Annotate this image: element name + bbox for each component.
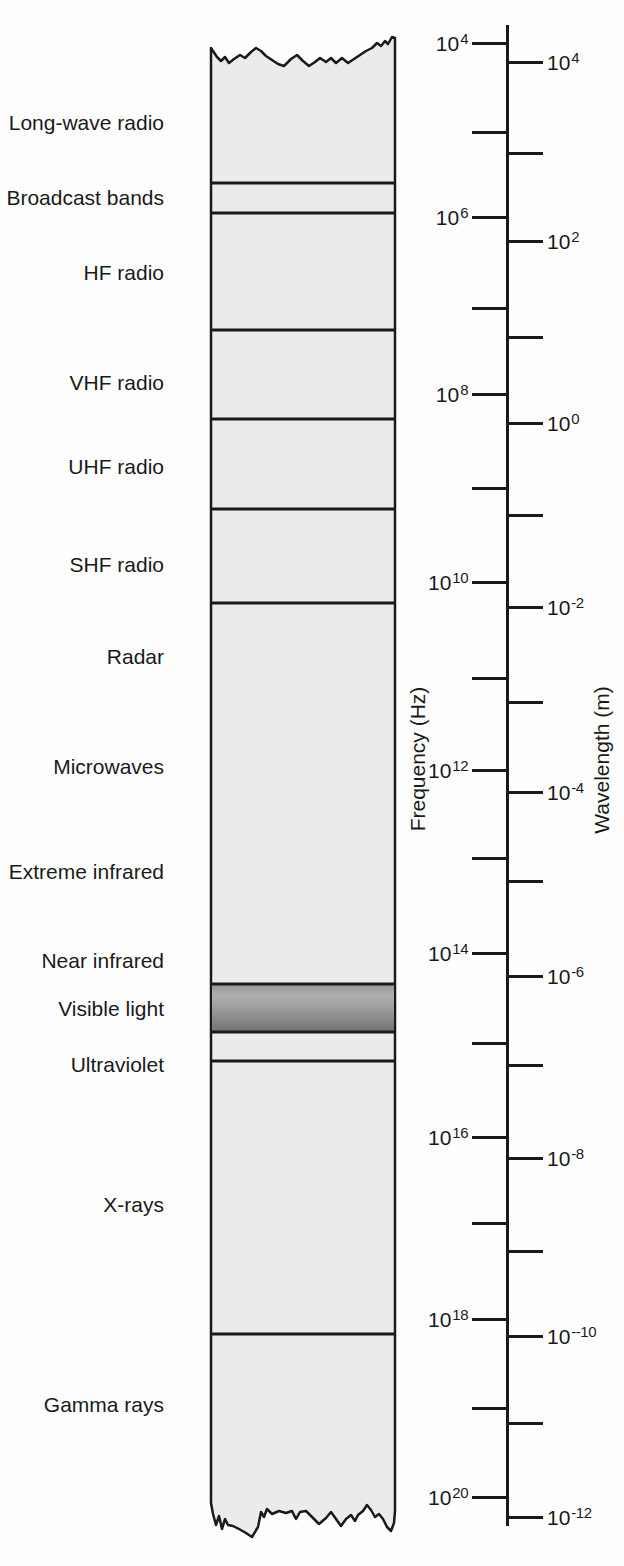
frequency-tick bbox=[472, 1136, 507, 1139]
frequency-tick bbox=[472, 487, 507, 490]
region-label-microwaves: Microwaves bbox=[53, 756, 164, 777]
frequency-tick bbox=[472, 1407, 507, 1410]
frequency-tick bbox=[472, 677, 507, 680]
frequency-tick bbox=[472, 42, 507, 45]
frequency-tick bbox=[472, 393, 507, 396]
wavelength-tick bbox=[507, 606, 543, 609]
axis-line bbox=[506, 25, 509, 1526]
frequency-tick-label: 1012 bbox=[428, 760, 468, 781]
wavelength-tick bbox=[507, 1064, 543, 1067]
wavelength-tick-label: 10-4 bbox=[547, 782, 584, 803]
region-label-ultraviolet: Ultraviolet bbox=[71, 1054, 164, 1075]
spectrum-band bbox=[209, 30, 398, 1550]
frequency-tick bbox=[472, 952, 507, 955]
frequency-tick-label: 108 bbox=[436, 384, 468, 405]
region-label-broadcast-bands: Broadcast bands bbox=[6, 187, 164, 208]
frequency-tick bbox=[472, 216, 507, 219]
wavelength-tick bbox=[507, 336, 543, 339]
frequency-tick-label: 1014 bbox=[428, 943, 468, 964]
wavelength-tick bbox=[507, 1335, 543, 1338]
region-label-gamma-rays: Gamma rays bbox=[44, 1394, 164, 1415]
wavelength-axis-title: Wavelength (m) bbox=[591, 686, 612, 833]
wavelength-tick bbox=[507, 61, 543, 64]
frequency-tick bbox=[472, 1496, 507, 1499]
wavelength-tick bbox=[507, 791, 543, 794]
region-label-radar: Radar bbox=[107, 646, 164, 667]
wavelength-tick bbox=[507, 240, 543, 243]
frequency-tick bbox=[472, 1042, 507, 1045]
wavelength-tick bbox=[507, 1250, 543, 1253]
frequency-tick-label: 1018 bbox=[428, 1309, 468, 1330]
wavelength-tick bbox=[507, 1516, 543, 1519]
frequency-tick bbox=[472, 857, 507, 860]
region-label-hf-radio: HF radio bbox=[83, 262, 164, 283]
wavelength-tick bbox=[507, 514, 543, 517]
wavelength-tick-label: 102 bbox=[547, 231, 579, 252]
region-label-x-rays: X-rays bbox=[103, 1194, 164, 1215]
region-label-long-wave-radio: Long-wave radio bbox=[9, 112, 164, 133]
wavelength-tick bbox=[507, 880, 543, 883]
frequency-tick-label: 106 bbox=[436, 207, 468, 228]
frequency-tick-label: 104 bbox=[436, 33, 468, 54]
wavelength-tick bbox=[507, 422, 543, 425]
wavelength-tick-label: 10-8 bbox=[547, 1148, 584, 1169]
visible-light-gradient bbox=[212, 984, 394, 1032]
region-label-visible-light: Visible light bbox=[58, 998, 164, 1019]
band-outline bbox=[211, 37, 395, 1537]
wavelength-tick bbox=[507, 1157, 543, 1160]
frequency-tick-label: 1016 bbox=[428, 1127, 468, 1148]
frequency-tick bbox=[472, 1318, 507, 1321]
frequency-tick bbox=[472, 581, 507, 584]
region-label-near-infrared: Near infrared bbox=[41, 950, 164, 971]
wavelength-tick bbox=[507, 975, 543, 978]
region-label-vhf-radio: VHF radio bbox=[69, 372, 164, 393]
frequency-tick bbox=[472, 1222, 507, 1225]
frequency-tick-label: 1020 bbox=[428, 1487, 468, 1508]
frequency-tick bbox=[472, 769, 507, 772]
region-label-uhf-radio: UHF radio bbox=[68, 456, 164, 477]
frequency-axis-title: Frequency (Hz) bbox=[407, 687, 428, 832]
region-label-shf-radio: SHF radio bbox=[69, 554, 164, 575]
wavelength-tick bbox=[507, 1422, 543, 1425]
frequency-tick bbox=[472, 307, 507, 310]
wavelength-tick bbox=[507, 152, 543, 155]
wavelength-tick-label: 10-6 bbox=[547, 966, 584, 987]
frequency-tick bbox=[472, 131, 507, 134]
wavelength-tick-label: 10-2 bbox=[547, 597, 584, 618]
wavelength-tick-label: 10-12 bbox=[547, 1507, 592, 1528]
wavelength-tick bbox=[507, 701, 543, 704]
wavelength-tick-label: 100 bbox=[547, 413, 579, 434]
electromagnetic-spectrum-diagram: Long-wave radioBroadcast bandsHF radioVH… bbox=[0, 0, 624, 1566]
region-label-extreme-infrared: Extreme infrared bbox=[9, 861, 164, 882]
frequency-tick-label: 1010 bbox=[428, 572, 468, 593]
wavelength-tick-label: 10--10 bbox=[547, 1326, 596, 1347]
wavelength-tick-label: 104 bbox=[547, 52, 579, 73]
